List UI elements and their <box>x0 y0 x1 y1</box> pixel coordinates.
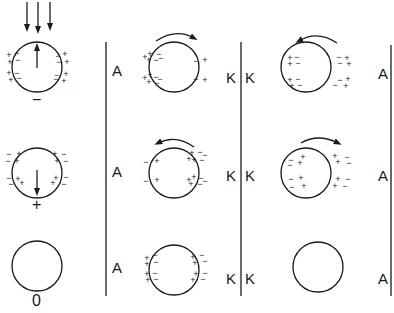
svg-text:+: + <box>297 158 302 168</box>
svg-text:+: + <box>202 55 207 65</box>
svg-text:−: − <box>153 274 158 284</box>
anode-label: A <box>378 168 388 183</box>
cathode-label: K <box>245 271 255 286</box>
anode-label: A <box>378 271 388 286</box>
svg-text:+: + <box>343 81 348 91</box>
svg-text:−: − <box>342 181 347 191</box>
svg-text:−: − <box>16 73 21 83</box>
svg-text:+: + <box>61 76 66 86</box>
svg-text:−: − <box>56 57 61 67</box>
cathode-label: K <box>226 70 236 85</box>
svg-text:−: − <box>202 256 207 266</box>
cathode-label: K <box>226 168 236 183</box>
svg-text:−: − <box>346 158 351 168</box>
svg-text:+: + <box>154 175 159 185</box>
svg-text:+: + <box>287 59 292 69</box>
svg-text:+: + <box>301 181 306 191</box>
svg-text:−: − <box>61 179 66 189</box>
svg-text:−: − <box>202 176 207 186</box>
anode-label: A <box>112 260 122 275</box>
svg-text:−: − <box>337 75 342 85</box>
svg-text:+: + <box>54 156 59 166</box>
sphere-col3-row3 <box>293 242 343 292</box>
svg-text:+: + <box>8 75 13 85</box>
anode-label: A <box>378 66 388 81</box>
svg-text:+: + <box>335 157 340 167</box>
svg-text:−: − <box>5 156 10 166</box>
svg-text:+: + <box>64 57 69 67</box>
svg-text:+: + <box>289 81 294 91</box>
svg-text:−: − <box>63 156 68 166</box>
svg-text:−: − <box>332 80 337 90</box>
charged-sphere-diagram: +− +− +− +− +− +− +− +− −+ −+ −+ −+ −+ −… <box>0 0 394 313</box>
svg-text:−: − <box>199 155 204 165</box>
svg-text:+: + <box>190 275 195 285</box>
rotation-arrow-clockwise-icon <box>156 34 194 41</box>
svg-text:+: + <box>19 178 24 188</box>
svg-text:+: + <box>146 77 151 87</box>
anode-label: A <box>112 164 122 179</box>
rotation-arrow-clockwise-icon <box>301 138 338 143</box>
svg-text:+: + <box>186 154 191 164</box>
svg-text:−: − <box>15 55 20 65</box>
svg-text:+: + <box>146 55 151 65</box>
svg-text:−: − <box>154 78 159 88</box>
svg-text:−: − <box>158 53 163 63</box>
svg-text:−: − <box>193 56 198 66</box>
svg-text:+: + <box>154 156 159 166</box>
svg-text:−: − <box>297 80 302 90</box>
svg-text:−: − <box>200 274 205 284</box>
svg-text:−: − <box>287 160 292 170</box>
svg-text:+: + <box>188 179 193 189</box>
svg-text:+: + <box>50 178 55 188</box>
sphere-neutral <box>12 241 62 291</box>
svg-text:−: − <box>197 179 202 189</box>
svg-text:+: + <box>191 155 196 165</box>
svg-text:−: − <box>295 58 300 68</box>
svg-text:−: − <box>193 74 198 84</box>
svg-text:+: + <box>202 75 207 85</box>
incoming-field-arrows <box>27 2 50 30</box>
svg-text:−: − <box>143 157 148 167</box>
rotation-arrow-counterclockwise-icon <box>158 139 194 147</box>
svg-text:+: + <box>144 259 149 269</box>
svg-text:+: + <box>14 156 19 166</box>
svg-text:−: − <box>8 179 13 189</box>
svg-text:−: − <box>289 182 294 192</box>
net-charge-positive-label: + <box>32 197 41 213</box>
cathode-label: K <box>245 168 255 183</box>
svg-text:+: + <box>346 59 351 69</box>
svg-text:−: − <box>53 74 58 84</box>
svg-text:−: − <box>337 58 342 68</box>
svg-text:+: + <box>145 275 150 285</box>
svg-text:−: − <box>153 55 158 65</box>
svg-text:+: + <box>192 258 197 268</box>
svg-text:+: + <box>7 57 12 67</box>
cathode-label: K <box>226 271 236 286</box>
svg-text:+: + <box>332 181 337 191</box>
net-charge-negative-label: − <box>32 92 41 108</box>
svg-text:−: − <box>143 176 148 186</box>
svg-text:−: − <box>153 257 158 267</box>
anode-label: A <box>112 63 122 78</box>
cathode-label: K <box>245 70 255 85</box>
net-charge-neutral-label: 0 <box>32 293 41 309</box>
